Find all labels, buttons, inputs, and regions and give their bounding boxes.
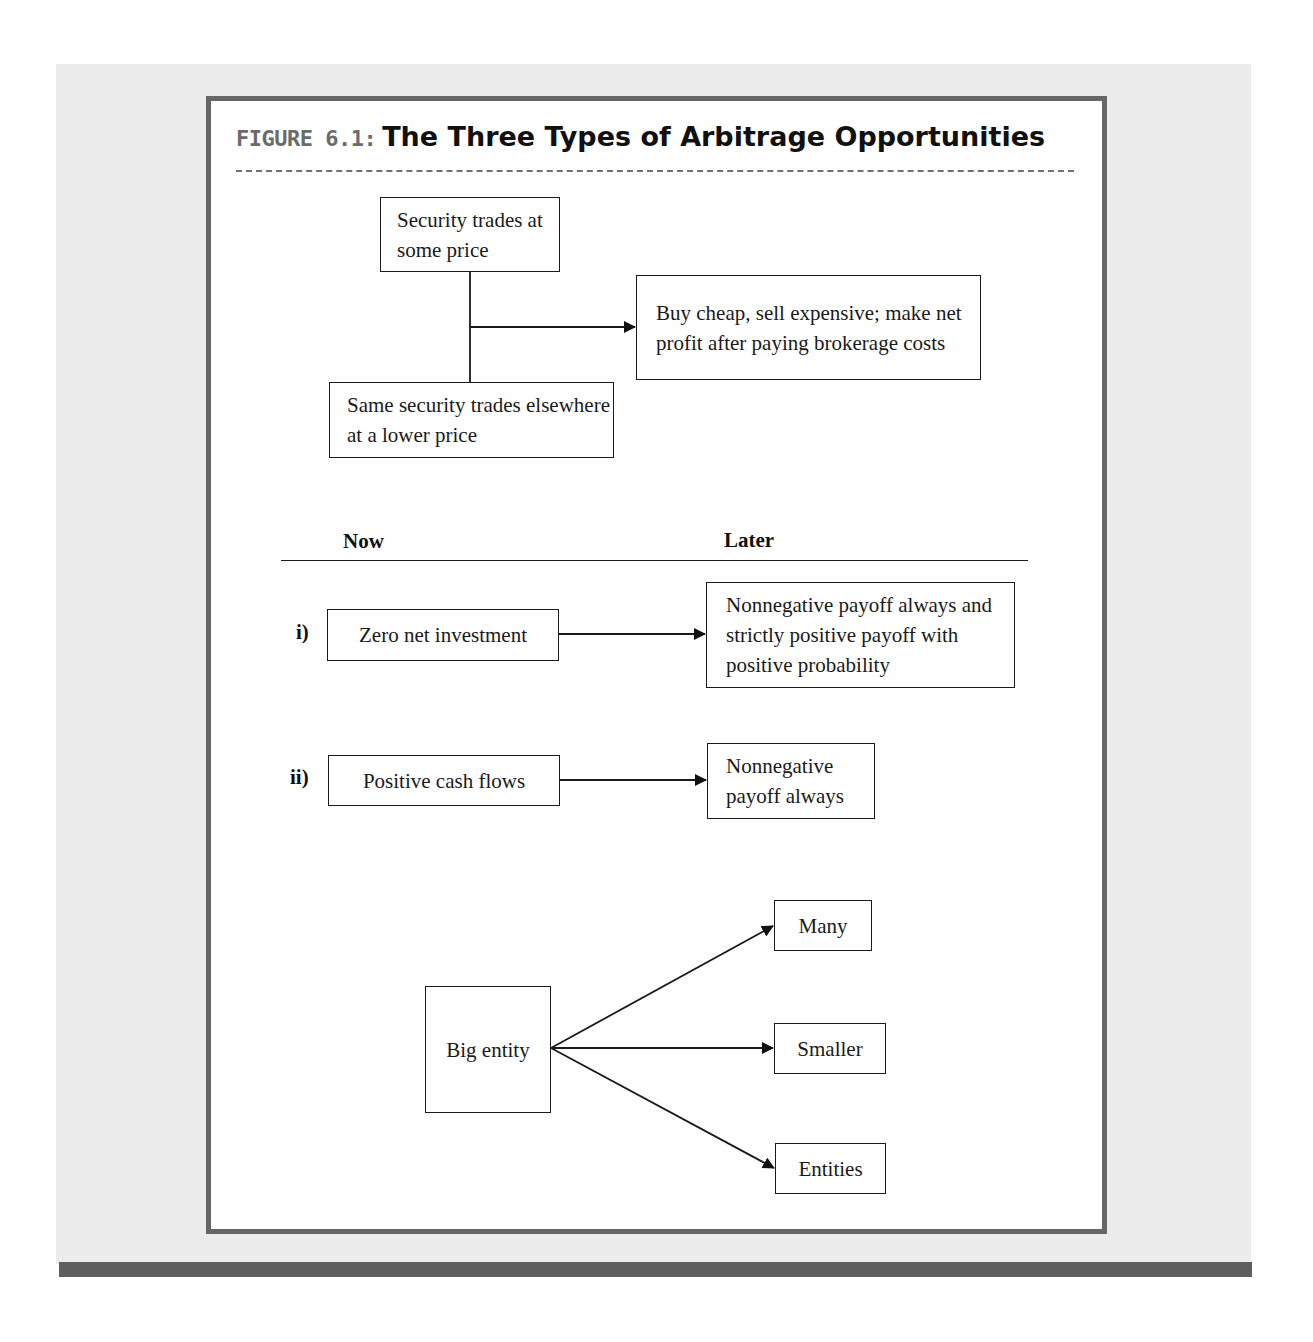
header-rule [281,560,1028,561]
node-smaller: Smaller [774,1023,886,1074]
node-big-entity: Big entity [425,986,551,1113]
node-zero-net-investment-text: Zero net investment [359,620,527,650]
node-many: Many [774,900,872,951]
node-nonnegative-always: Nonnegative payoff always [707,743,875,819]
node-entities: Entities [775,1143,886,1194]
node-result-profit: Buy cheap, sell expensive; make net prof… [636,275,981,380]
page-bottom-bar [59,1262,1252,1277]
node-positive-cash-flows-text: Positive cash flows [363,766,525,796]
node-security-trades-text: Security trades at some price [397,205,547,265]
figure-label: FIGURE 6.1: [236,126,376,151]
row-label-i: i) [296,620,309,645]
node-big-entity-text: Big entity [446,1035,529,1065]
column-header-later: Later [724,528,774,553]
node-security-trades: Security trades at some price [380,197,560,272]
node-nonnegative-strict-text: Nonnegative payoff always and strictly p… [726,590,1014,680]
node-many-text: Many [799,911,848,941]
node-lower-price: Same security trades elsewhere at a lowe… [329,382,614,458]
row-label-ii: ii) [290,765,309,790]
node-nonnegative-always-text: Nonnegative payoff always [726,751,866,811]
node-smaller-text: Smaller [797,1034,862,1064]
node-positive-cash-flows: Positive cash flows [328,755,560,806]
node-lower-price-text: Same security trades elsewhere at a lowe… [347,390,612,450]
node-nonnegative-strict: Nonnegative payoff always and strictly p… [706,582,1015,688]
title-dashed-divider [236,170,1074,172]
node-zero-net-investment: Zero net investment [327,609,559,661]
column-header-now: Now [343,529,384,554]
node-result-profit-text: Buy cheap, sell expensive; make net prof… [656,298,974,358]
figure-heading: The Three Types of Arbitrage Opportuniti… [382,121,1045,152]
node-entities-text: Entities [798,1154,862,1184]
figure-title: FIGURE 6.1:The Three Types of Arbitrage … [236,117,1045,161]
